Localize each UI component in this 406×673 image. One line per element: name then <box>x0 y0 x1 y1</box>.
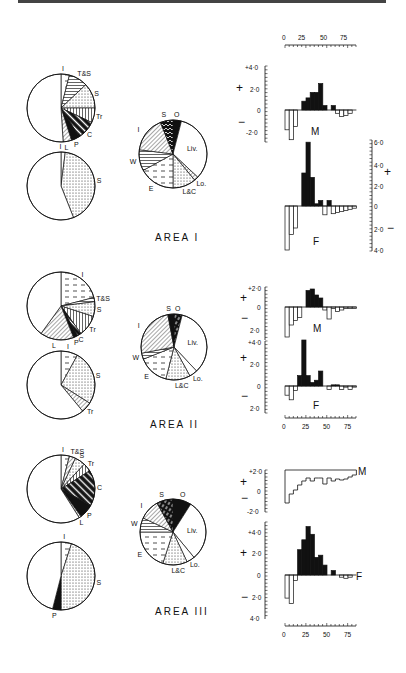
svg-text:+4·0: +4·0 <box>248 529 262 536</box>
histogram-bar <box>335 110 339 113</box>
area-2-f-label: F <box>313 400 319 411</box>
pie-label: S <box>162 111 167 118</box>
pie-label: L <box>52 342 56 349</box>
pie-label: P <box>52 612 57 619</box>
histogram-bar <box>293 110 297 127</box>
svg-text:25: 25 <box>302 631 310 638</box>
histogram-bar <box>344 206 348 210</box>
area-3-title: AREA III <box>155 606 209 617</box>
pie-label: O <box>174 111 180 118</box>
svg-text:2·0: 2·0 <box>374 226 384 233</box>
area-2-title: AREA II <box>150 419 199 430</box>
svg-text:+2·0: +2·0 <box>248 285 262 292</box>
area-1-f-label: F <box>313 236 319 247</box>
pie-label: Lo. <box>196 180 206 187</box>
pie-label: S <box>159 491 164 498</box>
histogram-bar <box>293 386 297 391</box>
area-2-histogram-f <box>285 340 356 400</box>
svg-text:0: 0 <box>257 304 261 311</box>
svg-text:−: − <box>241 311 248 325</box>
area-3-diet-pie-upper: IT&SSTrCPL <box>27 446 102 526</box>
svg-text:25: 25 <box>302 423 310 430</box>
svg-text:2·0: 2·0 <box>252 550 262 557</box>
pie-label: P <box>87 512 92 519</box>
area-3-m-label: M <box>358 466 366 477</box>
svg-text:2·0: 2·0 <box>250 86 260 93</box>
pie-label: L&C <box>183 188 197 195</box>
svg-text:0: 0 <box>257 572 261 579</box>
area-3-histogram-m <box>285 470 356 503</box>
svg-text:6·0: 6·0 <box>374 139 384 146</box>
pie-label: I <box>62 65 64 72</box>
svg-text:75: 75 <box>344 631 352 638</box>
svg-text:4·0: 4·0 <box>374 247 384 254</box>
svg-text:2·0: 2·0 <box>250 327 260 334</box>
area-2: IT&SSTrCPL ISTr OLiv.Lo.L&CEWIS AREA II … <box>27 271 356 430</box>
area-3-m-y-axis: +2·0 0 -2·0 + − <box>240 468 268 515</box>
histogram-bar <box>298 307 302 318</box>
pie-label: W <box>131 520 138 527</box>
svg-text:−: − <box>241 590 248 604</box>
area-3-habitat-pie: OLiv.Lo.L&CEWIS <box>131 491 206 575</box>
histogram-bar <box>289 386 293 400</box>
area-3-f-label: F <box>356 571 362 582</box>
area-1-diet-pie-lower: IS <box>27 143 102 220</box>
svg-text:−: − <box>387 221 394 235</box>
pie-label: E <box>137 551 142 558</box>
pie-label: Lo. <box>193 375 203 382</box>
svg-text:+: + <box>240 475 247 489</box>
histogram-bar <box>344 110 348 116</box>
histogram-bar <box>348 206 352 209</box>
histogram-bar <box>331 106 335 110</box>
histogram-bar <box>302 101 306 110</box>
svg-text:+4·0: +4·0 <box>248 339 262 346</box>
histogram-bar <box>298 376 302 386</box>
svg-text:2·0: 2·0 <box>374 183 384 190</box>
svg-text:2·0: 2·0 <box>250 405 260 412</box>
histogram-bar <box>298 550 302 575</box>
svg-text:+: + <box>240 351 247 365</box>
pie-label: E <box>149 185 154 192</box>
svg-text:+: + <box>240 546 247 560</box>
svg-text:0: 0 <box>282 631 286 638</box>
histogram-bar <box>319 555 323 575</box>
svg-text:50: 50 <box>323 631 331 638</box>
histogram-bar <box>293 575 297 581</box>
histogram-bar <box>314 295 318 307</box>
histogram-bar <box>314 557 318 575</box>
histogram-bar <box>323 307 327 310</box>
histogram-bar <box>335 206 339 213</box>
histogram-bar <box>289 206 293 235</box>
pie-label: S <box>94 90 99 97</box>
histogram-bar <box>289 307 293 325</box>
pie-label: L <box>79 519 83 526</box>
svg-text:75: 75 <box>340 34 348 41</box>
pie-label: S <box>97 306 102 313</box>
histogram-bar <box>314 380 318 386</box>
histogram-bar <box>302 173 306 206</box>
pie-label: E <box>144 373 149 380</box>
pie-label: Tr <box>96 113 103 120</box>
pie-label: T&S <box>96 295 110 302</box>
pie-slice-blank <box>27 74 63 142</box>
histogram-bar <box>302 540 306 575</box>
pie-label: Liv. <box>188 339 198 346</box>
pie-label: Tr <box>87 408 94 415</box>
svg-text:0: 0 <box>374 203 378 210</box>
area-1-histogram-f <box>285 142 356 250</box>
pie-label: Tr <box>88 460 95 467</box>
histogram-bar <box>344 575 348 578</box>
pie-label: S <box>96 372 101 379</box>
area-3-histogram-f <box>285 527 356 604</box>
pie-label: S <box>97 579 102 586</box>
pie-label: I <box>67 343 69 350</box>
pie-label: I <box>138 322 140 329</box>
svg-text:0: 0 <box>257 107 261 114</box>
pie-label: L <box>64 144 68 151</box>
histogram-bar <box>302 340 306 386</box>
histogram-bar <box>310 534 314 575</box>
histogram-bar <box>323 206 327 215</box>
svg-text:2·0: 2·0 <box>250 361 260 368</box>
pie-label: P <box>74 339 79 346</box>
pie-label: I <box>82 271 84 278</box>
